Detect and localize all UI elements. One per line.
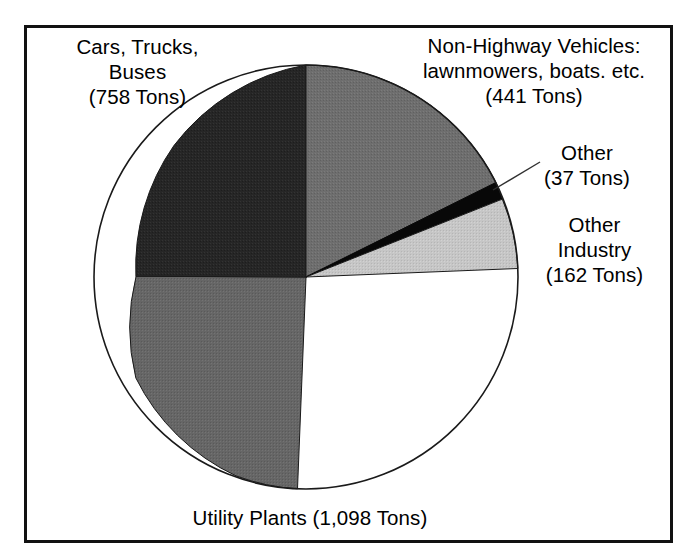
slice-label-other-industry: Other Industry (162 Tons) bbox=[522, 212, 667, 287]
pie-chart-figure: Cars, Trucks, Buses (758 Tons) Non-Highw… bbox=[0, 0, 698, 557]
slice-label-cars-trucks-buses: Cars, Trucks, Buses (758 Tons) bbox=[30, 34, 245, 109]
slice-label-non-highway-vehicles: Non-Highway Vehicles: lawnmowers, boats.… bbox=[400, 33, 668, 108]
slice-label-utility-plants: Utility Plants (1,098 Tons) bbox=[140, 505, 480, 530]
pie-slice-utility-plants bbox=[130, 276, 306, 489]
slice-label-other: Other (37 Tons) bbox=[512, 140, 662, 190]
